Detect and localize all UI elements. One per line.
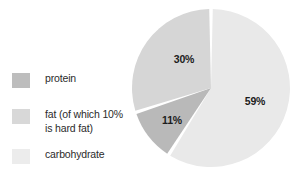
pie-label-fat: 30% [174,53,195,65]
legend-label-protein: protein [45,72,76,86]
pie-label-carbohydrate: 59% [245,95,266,107]
pie-chart: 59% 11% 30% [131,8,293,172]
pie-slices [132,9,290,167]
pie-chart-svg: 59% 11% 30% [131,8,293,172]
legend-item-carbohydrate: carbohydrate [12,148,105,164]
pie-chart-figure: protein fat (of which 10% is hard fat) c… [0,0,305,185]
legend-item-fat: fat (of which 10% is hard fat) [12,108,123,135]
legend-label-carbohydrate: carbohydrate [45,148,105,162]
legend-item-protein: protein [12,72,76,88]
pie-label-protein: 11% [162,114,183,126]
legend-swatch-fat [12,109,30,124]
legend-swatch-carbohydrate [12,149,30,164]
legend-swatch-protein [12,73,30,88]
legend-label-fat: fat (of which 10% is hard fat) [45,108,123,135]
